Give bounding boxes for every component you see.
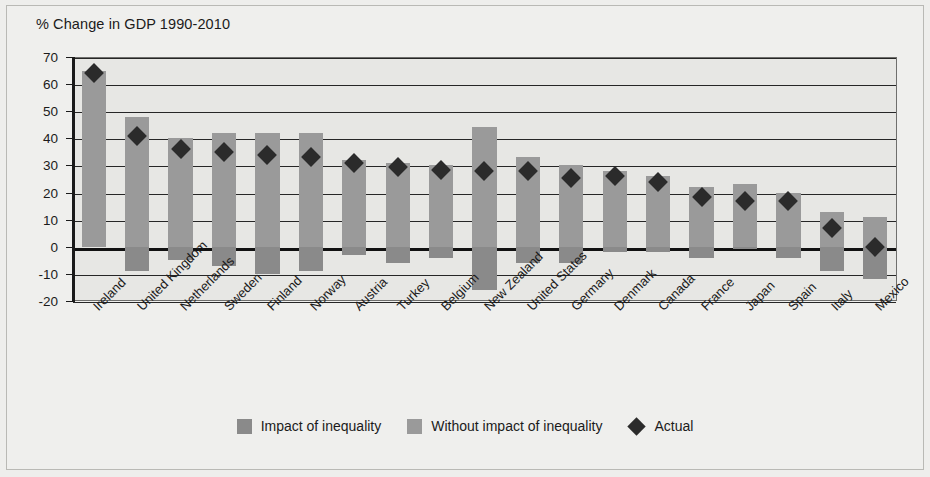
y-tick-label-50: 50	[24, 104, 58, 119]
bar-segment-impact-of-inequality[interactable]	[125, 247, 149, 271]
y-tick-label-60: 60	[24, 77, 58, 92]
bar-segment-impact-of-inequality[interactable]	[299, 247, 323, 271]
bar-segment-impact-of-inequality[interactable]	[820, 247, 844, 271]
y-tick-label--20: -20	[24, 294, 58, 309]
legend-label: Without impact of inequality	[431, 418, 602, 434]
chart-page: % Change in GDP 1990-2010 70605040302010…	[0, 0, 930, 477]
bar-group[interactable]	[689, 57, 713, 301]
y-tick-label-10: 10	[24, 212, 58, 227]
y-tick-label-0: 0	[24, 239, 58, 254]
bar-segment-impact-of-inequality[interactable]	[386, 247, 410, 263]
bar-segment-impact-of-inequality[interactable]	[689, 247, 713, 258]
chart-legend: Impact of inequalityWithout impact of in…	[0, 418, 930, 434]
bar-group[interactable]	[776, 57, 800, 301]
bar-segment-impact-of-inequality[interactable]	[342, 247, 366, 255]
diamond-icon	[628, 417, 646, 435]
y-tick-label-70: 70	[24, 50, 58, 65]
y-tick-label-20: 20	[24, 185, 58, 200]
bar-group[interactable]	[820, 57, 844, 301]
bar-group[interactable]	[82, 57, 106, 301]
y-tick-label-40: 40	[24, 131, 58, 146]
bar-segment-impact-of-inequality[interactable]	[646, 247, 670, 252]
chart-title: % Change in GDP 1990-2010	[36, 16, 230, 32]
bar-segment-impact-of-inequality[interactable]	[733, 247, 757, 250]
legend-item[interactable]: Impact of inequality	[237, 418, 382, 434]
bar-segment-impact-of-inequality[interactable]	[776, 247, 800, 258]
bar-segment-without-impact[interactable]	[472, 127, 496, 246]
legend-item[interactable]: Without impact of inequality	[407, 418, 602, 434]
bar-segment-impact-of-inequality[interactable]	[603, 247, 627, 252]
x-axis-labels: IrelandUnited KingdomNetherlandsSwedenFi…	[72, 303, 897, 408]
square-swatch-icon	[407, 419, 422, 434]
bar-group[interactable]	[472, 57, 496, 301]
legend-label: Actual	[654, 418, 693, 434]
legend-label: Impact of inequality	[261, 418, 382, 434]
bar-group[interactable]	[429, 57, 453, 301]
y-axis-labels: 706050403020100-10-20	[0, 57, 58, 301]
bar-series-container	[72, 57, 897, 301]
bar-group[interactable]	[299, 57, 323, 301]
y-tick-label-30: 30	[24, 158, 58, 173]
bar-group[interactable]	[342, 57, 366, 301]
bar-group[interactable]	[863, 57, 887, 301]
bar-group[interactable]	[733, 57, 757, 301]
bar-group[interactable]	[255, 57, 279, 301]
bar-segment-without-impact[interactable]	[82, 71, 106, 247]
y-tick-label--10: -10	[24, 266, 58, 281]
bar-segment-impact-of-inequality[interactable]	[255, 247, 279, 274]
square-swatch-icon	[237, 419, 252, 434]
bar-group[interactable]	[603, 57, 627, 301]
bar-group[interactable]	[125, 57, 149, 301]
bar-segment-impact-of-inequality[interactable]	[429, 247, 453, 258]
legend-item[interactable]: Actual	[628, 418, 693, 434]
bar-group[interactable]	[646, 57, 670, 301]
y-tick--20	[66, 301, 75, 302]
bar-group[interactable]	[386, 57, 410, 301]
bar-segment-without-impact[interactable]	[342, 160, 366, 247]
